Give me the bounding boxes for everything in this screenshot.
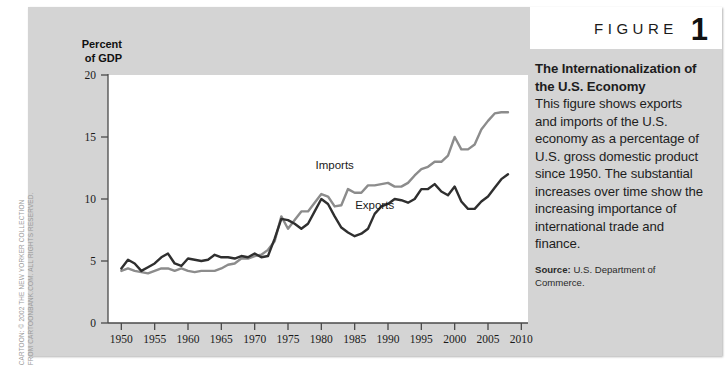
x-tick-label: 1990 [377, 333, 400, 345]
x-tick-label: 1955 [143, 333, 166, 345]
copyright-credit: CARTOON: © 2002 THE NEW YORKER COLLECTIO… [17, 165, 36, 365]
x-tick-label: 1995 [410, 333, 433, 345]
credit-line-2: FROM CARTOONBANK.COM. ALL RIGHTS RESERVE… [26, 165, 35, 365]
x-tick-label: 1980 [310, 333, 333, 345]
caption-body: This figure shows exports and imports of… [535, 95, 705, 253]
y-tick-label: 0 [90, 317, 96, 329]
x-tick-label: 1950 [110, 333, 133, 345]
x-axis-ticks: 1950195519601965197019751980198519901995… [110, 323, 533, 345]
x-tick-label: 1970 [243, 333, 266, 345]
x-tick-label: 1965 [210, 333, 233, 345]
caption-title: The Internationalization of the U.S. Eco… [535, 60, 705, 95]
series-label-exports: Exports [355, 199, 394, 211]
y-tick-label: 5 [90, 255, 96, 267]
caption-source: Source: U.S. Department of Commerce. [535, 264, 705, 289]
x-tick-label: 2000 [443, 333, 466, 345]
x-tick-label: 2010 [510, 333, 533, 345]
figure-container: FIGURE 1 Percent of GDP 05101520 1950195… [0, 0, 728, 370]
credit-line-1: CARTOON: © 2002 THE NEW YORKER COLLECTIO… [17, 165, 26, 365]
series-label-imports: Imports [315, 159, 354, 171]
y-tick-label: 15 [85, 131, 97, 143]
y-tick-label: 20 [85, 69, 97, 81]
y-tick-label: 10 [85, 193, 97, 205]
x-tick-label: 1975 [277, 333, 300, 345]
figure-caption: The Internationalization of the U.S. Eco… [535, 60, 705, 289]
x-tick-label: 1985 [343, 333, 366, 345]
y-axis-ticks: 05101520 [85, 69, 109, 329]
chart-series [121, 112, 508, 273]
source-label: Source: [535, 264, 571, 275]
x-tick-label: 1960 [177, 333, 200, 345]
x-tick-label: 2005 [477, 333, 500, 345]
series-line-exports [121, 174, 508, 271]
